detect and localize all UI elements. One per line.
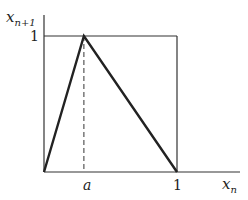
y-tick-label-1: 1 bbox=[30, 28, 39, 44]
tent-map-curve bbox=[44, 36, 177, 172]
x-axis-label: xn bbox=[222, 175, 237, 195]
tent-map-diagram: xn+1 1 a 1 xn bbox=[0, 0, 248, 200]
x-tick-label-1: 1 bbox=[173, 177, 182, 193]
x-tick-label-a: a bbox=[83, 177, 91, 193]
y-axis-label: xn+1 bbox=[6, 8, 36, 28]
